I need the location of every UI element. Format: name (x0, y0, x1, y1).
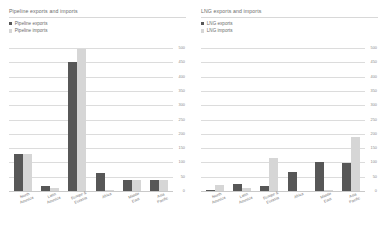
y-axis-tick-label: 250 (179, 118, 186, 122)
x-axis-labels-lng: NorthAmericaLatinAmericaEurope &EurasiaA… (201, 191, 365, 225)
y-axis-tick-label: 400 (371, 75, 378, 79)
legend-lng: LNG exports LNG imports (201, 21, 378, 35)
y-axis-tick-label: 250 (371, 118, 378, 122)
bar (68, 62, 77, 191)
bar-group (342, 48, 360, 191)
legend-item: LNG imports (201, 28, 378, 34)
legend-swatch-icon (201, 22, 204, 25)
plot-area-lng: 500450400350300250200150100500 (201, 48, 378, 191)
legend-item-label: Pipeline exports (15, 21, 48, 27)
legend-swatch-icon (201, 29, 204, 32)
bar-group (123, 48, 141, 191)
y-axis-tick-label: 500 (179, 46, 186, 50)
legend-swatch-icon (9, 22, 12, 25)
bar (96, 173, 105, 191)
y-axis-tick-label: 350 (179, 89, 186, 93)
legend-item-label: LNG imports (207, 28, 233, 34)
chart-panel-lng: LNG exports and imports LNG exports LNG … (192, 0, 384, 231)
y-axis-tick-label: 350 (371, 89, 378, 93)
y-axis-tick-label: 300 (179, 103, 186, 107)
bar (288, 172, 297, 191)
y-axis-tick-label: 500 (371, 46, 378, 50)
legend-item: LNG exports (201, 21, 378, 27)
bar-group (150, 48, 168, 191)
bar-group (260, 48, 278, 191)
y-axis-tick-label: 150 (179, 146, 186, 150)
bar-group (41, 48, 59, 191)
y-axis-tick-label: 0 (183, 189, 185, 193)
bar (77, 49, 86, 191)
y-axis-tick-label: 150 (371, 146, 378, 150)
bar-group (14, 48, 32, 191)
bar (315, 162, 324, 191)
y-axis-tick-label: 450 (371, 60, 378, 64)
title-divider (9, 17, 186, 18)
bar (23, 154, 32, 191)
legend-item-label: LNG exports (207, 21, 233, 27)
legend-item: Pipeline imports (9, 28, 186, 34)
y-axis-tick-label: 50 (373, 175, 377, 179)
y-axis-tick-label: 50 (181, 175, 185, 179)
y-axis-ticks-pipeline: 500450400350300250200150100500 (173, 48, 186, 191)
bar-group (68, 48, 86, 191)
y-axis-tick-label: 400 (179, 75, 186, 79)
bar-group (206, 48, 224, 191)
y-axis-tick-label: 300 (371, 103, 378, 107)
page-title: Pipeline exports and imports (9, 8, 186, 15)
bar-group (315, 48, 333, 191)
bar-group (233, 48, 251, 191)
bar-group (96, 48, 114, 191)
bar-group (288, 48, 306, 191)
y-axis-tick-label: 0 (375, 189, 377, 193)
bar (269, 158, 278, 191)
dual-chart-figure: Pipeline exports and imports Pipeline ex… (0, 0, 384, 231)
y-axis-tick-label: 200 (179, 132, 186, 136)
legend-item: Pipeline exports (9, 21, 186, 27)
bar (351, 137, 360, 191)
bar (14, 154, 23, 191)
x-axis-label-line: Africa (287, 189, 311, 202)
y-axis-tick-label: 450 (179, 60, 186, 64)
y-axis-tick-label: 200 (371, 132, 378, 136)
bar (123, 180, 132, 191)
title-divider (201, 17, 378, 18)
chart-panel-pipeline: Pipeline exports and imports Pipeline ex… (0, 0, 192, 231)
bar-series-pipeline (9, 48, 173, 191)
x-axis-labels-pipeline: NorthAmericaLatinAmericaEurope &EurasiaA… (9, 191, 173, 225)
bar-series-lng (201, 48, 365, 191)
y-axis-tick-label: 100 (179, 160, 186, 164)
legend-pipeline: Pipeline exports Pipeline imports (9, 21, 186, 35)
y-axis-tick-label: 100 (371, 160, 378, 164)
bar (342, 163, 351, 191)
plot-area-pipeline: 500450400350300250200150100500 (9, 48, 186, 191)
legend-swatch-icon (9, 29, 12, 32)
x-axis-label-line: Africa (95, 189, 119, 202)
legend-item-label: Pipeline imports (15, 28, 48, 34)
bar (233, 184, 242, 191)
bar (150, 180, 159, 191)
page-title: LNG exports and imports (201, 8, 378, 15)
y-axis-ticks-lng: 500450400350300250200150100500 (365, 48, 378, 191)
